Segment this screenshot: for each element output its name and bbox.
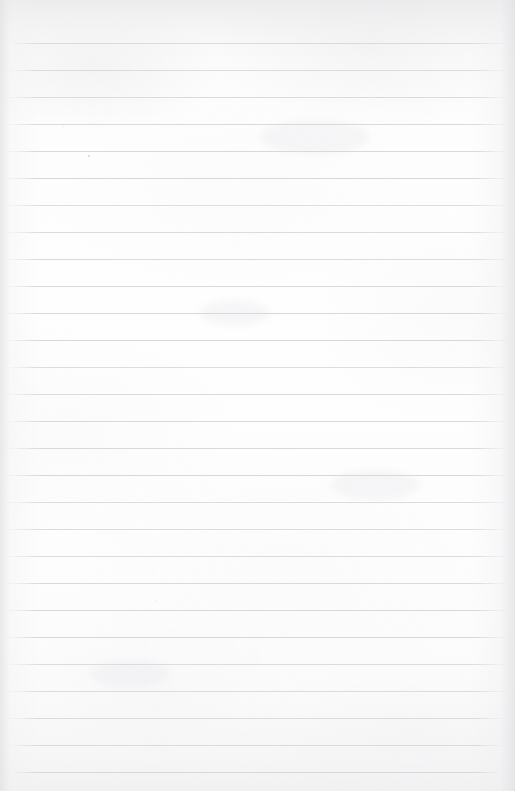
paper-edge-vignette: [0, 0, 515, 791]
scanned-page: [0, 0, 515, 791]
